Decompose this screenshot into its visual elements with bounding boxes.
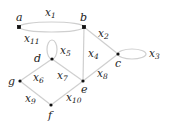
- node-f: [49, 103, 52, 106]
- node-labels: a b c d e f g: [8, 11, 121, 122]
- node-label-e: e: [81, 83, 88, 96]
- edge-x1-x11: [19, 22, 84, 32]
- node-label-f: f: [47, 109, 54, 122]
- edge-label-x2: x2: [98, 27, 109, 41]
- edge-labels: x1 x11 x2 x3 x4 x5 x6 x7 x8 x9 x10: [24, 6, 160, 106]
- node-d: [50, 57, 53, 60]
- node-label-a: a: [16, 11, 23, 24]
- node-label-g: g: [8, 75, 15, 88]
- edge-label-x5: x5: [60, 44, 71, 58]
- edge-label-x3: x3: [149, 47, 160, 61]
- node-c: [116, 52, 119, 55]
- graph-diagram: a b c d e f g x1 x11 x2 x3 x4 x5 x6 x7 x…: [0, 0, 169, 129]
- edge-label-x6: x6: [33, 71, 44, 85]
- edge-label-x8: x8: [97, 67, 108, 81]
- edge-x4: [83, 27, 84, 81]
- node-label-c: c: [115, 57, 121, 70]
- node-g: [18, 79, 21, 82]
- edge-label-x9: x9: [25, 92, 36, 106]
- edge-label-x10: x10: [66, 91, 82, 105]
- node-b: [83, 26, 86, 29]
- edge-label-x11: x11: [24, 32, 39, 46]
- node-label-d: d: [34, 52, 41, 65]
- edge-label-x7: x7: [57, 69, 68, 83]
- edge-x5-loop: [47, 40, 57, 59]
- edge-label-x4: x4: [88, 47, 99, 61]
- node-label-b: b: [80, 11, 87, 24]
- edge-label-x1: x1: [45, 6, 56, 20]
- edge-x3-loop: [118, 49, 146, 59]
- node-a: [18, 26, 21, 29]
